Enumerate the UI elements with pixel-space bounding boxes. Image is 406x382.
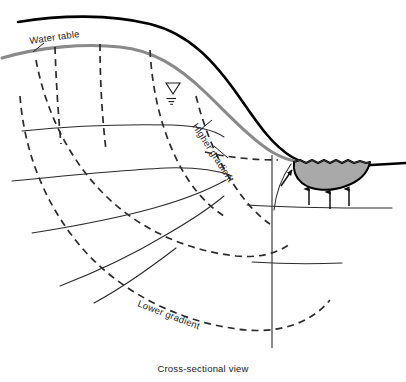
label-leaders-group (33, 43, 228, 158)
equipotential-line-lake-left (274, 164, 291, 210)
equipotential-lines-group (12, 125, 392, 303)
equipotential-line-5 (94, 248, 176, 303)
flow-line-3 (36, 60, 290, 257)
lower-gradient-label: Lower gradient (136, 298, 201, 332)
lake-group (294, 160, 370, 190)
higher-gradient-label: Higher gradient (190, 121, 236, 184)
figure-container: Water table Higher gradient Lower gradie… (0, 0, 406, 382)
equipotential-line-2 (12, 168, 232, 181)
lake-water-body (294, 160, 370, 190)
figure-caption: Cross-sectional view (0, 363, 406, 374)
flow-lines-group (20, 44, 330, 330)
flow-line-5 (20, 96, 330, 330)
equipotential-line-3 (32, 180, 226, 233)
flow-line-2 (100, 44, 106, 150)
water-table-triangle-icon (166, 83, 180, 104)
cross-section-diagram: Water table Higher gradient Lower gradie… (0, 0, 406, 382)
equipotential-line-right-1 (247, 205, 392, 208)
water-table-label: Water table (29, 28, 80, 46)
equipotential-line-right-2 (252, 262, 342, 264)
